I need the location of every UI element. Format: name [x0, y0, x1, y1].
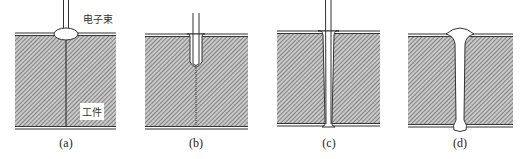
panel-a-caption: (a) [51, 136, 81, 151]
keyhole [187, 33, 205, 67]
panel-b [145, 13, 248, 129]
electron-beam-label: 电子束 [83, 11, 113, 26]
melt-pool [54, 28, 78, 40]
panel-c-caption: (c) [314, 136, 344, 151]
electron-beam [326, 0, 327, 124]
workpiece-label: 工件 [80, 103, 104, 120]
panel-d-caption: (d) [445, 136, 475, 151]
panel-b-caption: (b) [181, 136, 211, 151]
panel-c [277, 0, 380, 127]
panel-d [408, 28, 513, 132]
